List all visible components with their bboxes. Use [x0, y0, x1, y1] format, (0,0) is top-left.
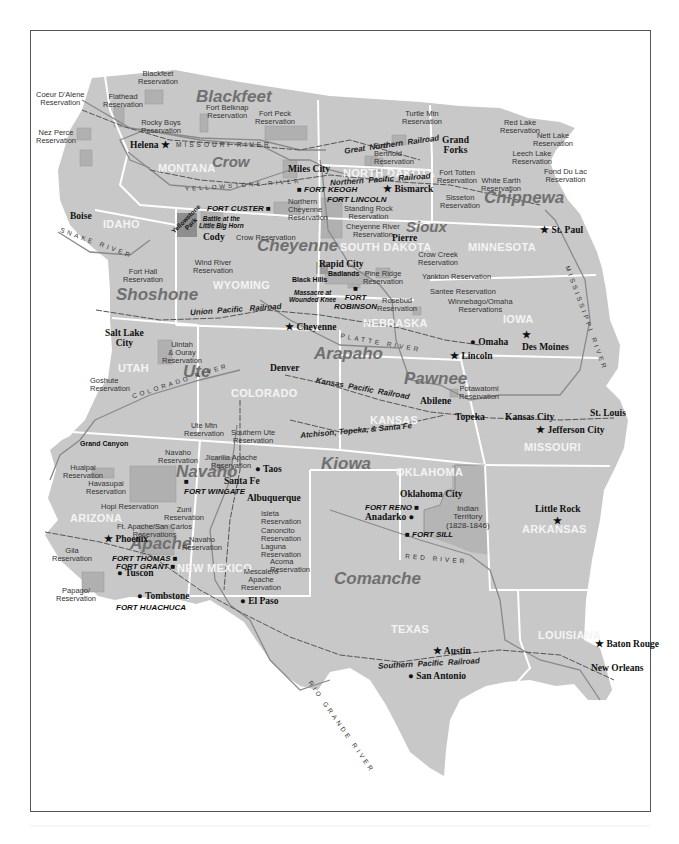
- landmark-line: Little Big Horn: [199, 222, 244, 229]
- label-nett-lake-reservation: Nett LakeReservation: [533, 132, 573, 148]
- state-label-minnesota: MINNESOTA: [468, 242, 536, 253]
- label-potawatomi-reservation: PotawatomiReservation: [459, 385, 499, 401]
- res-line: Reservation: [184, 429, 224, 438]
- city-name: Omaha: [478, 337, 508, 347]
- res-line: Reservation: [138, 77, 178, 86]
- city-name: Anadarko: [365, 512, 406, 522]
- city-st-paul: ★ St. Paul: [540, 226, 583, 236]
- city-name: Lincoln: [461, 351, 492, 361]
- city-name: Tombstone: [145, 591, 190, 601]
- city-kansas-city: Kansas City: [505, 413, 554, 423]
- city-new-orleans: New Orleans: [591, 664, 644, 674]
- label-coeur-dalene-reservation: Coeur D'AleneReservation: [36, 91, 85, 107]
- city-cheyenne: ★ Cheyenne: [285, 323, 337, 333]
- label-rosebud-reservation: RosebudReservation: [377, 297, 417, 313]
- label-isleta-reservation: IsletaReservation: [261, 510, 301, 526]
- fort-robinson: ■FORTROBINSON: [334, 285, 377, 311]
- res-line: Reservation: [440, 201, 480, 210]
- res-line: Reservation: [459, 392, 499, 401]
- city-name: Des Moines: [522, 342, 569, 352]
- fort-huachuca: FORT HUACHUCA: [116, 604, 186, 612]
- fort-grant: FORT GRANT ■: [116, 563, 175, 571]
- fort-custer: FORT CUSTER ■: [207, 205, 271, 213]
- fort-name: FORT CUSTER: [207, 204, 264, 213]
- label-flathead-reservation: FlatheadReservation: [103, 93, 143, 109]
- state-label-montana: MONTANA: [158, 163, 216, 174]
- rr-word: Pacific: [217, 305, 243, 316]
- state-label-iowa: IOWA: [503, 314, 534, 325]
- city-name: Bismarck: [394, 184, 433, 194]
- res-line: Reservation: [207, 111, 247, 120]
- res-line: Reservation: [255, 117, 295, 126]
- label-fort-totten-reservation: Fort TottenReservation: [437, 169, 477, 185]
- label-fort-peck-reservation: Fort PeckReservation: [255, 110, 295, 126]
- label-nez-perce-reservation: Nez PerceReservation: [36, 129, 76, 145]
- label-northern-cheyenne-reservation: NorthernCheyenneReservation: [288, 198, 328, 222]
- label-winnebago-omaha-reservations: Winnebago/OmahaReservations: [448, 298, 513, 314]
- tribe-label-arapaho: Arapaho: [314, 345, 383, 362]
- city-anadarko: Anadarko ●: [365, 513, 414, 523]
- label-white-earth-reservation: White EarthReservation: [481, 177, 521, 193]
- label-missouri-river: MISSOURI RIVER: [176, 142, 272, 149]
- tribe-label-pawnee: Pawnee: [404, 370, 467, 387]
- label-crow-creek-reservation: Crow CreekReservation: [418, 251, 458, 267]
- res-line: Reservation: [233, 436, 273, 445]
- label-santee-reservation: Santee Reservation: [430, 288, 496, 296]
- city-name: City: [116, 338, 133, 348]
- fort-reno: FORT RENO ■: [365, 504, 419, 512]
- label-jicarilla-apache-reservation: Jicarilla ApacheReservation: [205, 454, 257, 470]
- label-blackfeet-reservation: BlackfeetReservation: [138, 70, 178, 86]
- res-line: Reservations: [133, 530, 177, 539]
- city-oklahoma-city: Oklahoma City: [400, 490, 463, 500]
- city-name: Salt Lake: [105, 328, 144, 338]
- state-label-wyoming: WYOMING: [213, 280, 270, 291]
- res-line: Reservation: [158, 456, 198, 465]
- label-ft-apache-san-carlos-reservations: Ft. Apache/San CarlosReservations: [117, 523, 192, 539]
- label-zuni-reservation: ZuniReservation: [164, 506, 204, 522]
- state-label-utah: UTAH: [118, 363, 149, 374]
- label-black-hills: Black Hills: [292, 276, 327, 283]
- label-fort-hall-reservation: Fort HallReservation: [123, 268, 163, 284]
- landmark-line: Wounded Knee: [289, 296, 336, 303]
- rr-word: Union: [190, 307, 213, 318]
- res-line: Reservation: [437, 176, 477, 185]
- state-label-nebraska: NEBRASKA: [363, 318, 428, 329]
- res-line: Reservation: [512, 157, 552, 166]
- res-line: Reservation: [86, 487, 126, 496]
- city-name: Baton Rouge: [606, 639, 659, 649]
- res-line: Reservation: [52, 554, 92, 563]
- label-hualpai-reservation: HualpaiReservation: [63, 464, 103, 480]
- label-standing-rock-reservation: Standing RockReservation: [344, 205, 393, 221]
- state-label-texas: TEXAS: [391, 624, 429, 635]
- fort-sill: ■ FORT SILL: [405, 531, 453, 539]
- res-line: Reservation: [56, 594, 96, 603]
- city-rapid-city: Rapid City: [319, 260, 364, 270]
- city-boise: Boise: [70, 212, 92, 222]
- label-badlands: Badlands: [328, 270, 360, 277]
- city-miles-city: Miles City: [288, 165, 330, 175]
- city-omaha: ● Omaha: [470, 338, 508, 348]
- res-line: Reservation: [90, 384, 130, 393]
- city-st-louis: St. Louis: [590, 409, 626, 419]
- label-leech-lake-reservation: Leech LakeReservation: [512, 150, 552, 166]
- tribe-label-comanche: Comanche: [334, 570, 421, 587]
- label-fond-du-lac-reservation: Fond Du LacReservation: [544, 168, 587, 184]
- tribe-label-crow: Crow: [212, 154, 250, 169]
- landmark-line: (1828-1846): [446, 521, 490, 530]
- city-name: San Antonio: [416, 671, 466, 681]
- label-grand-canyon: Grand Canyon: [80, 440, 128, 447]
- label-pine-ridge-reservation: Pine RidgeReservation: [363, 270, 403, 286]
- res-line: Reservations: [458, 305, 502, 314]
- res-line: Reservation: [241, 583, 281, 592]
- city-cody: Cody: [203, 233, 225, 243]
- res-line: Reservation: [211, 461, 251, 470]
- fort-wingate: ■FORT WINGATE: [184, 477, 245, 498]
- label-yankton-reservation: Yankton Reservation: [422, 273, 491, 281]
- rr-word: Railroad: [448, 656, 480, 667]
- city-name: Little Rock: [535, 504, 581, 514]
- fort-keogh: ■ FORT KEOGH: [297, 186, 357, 194]
- state-label-oklahoma: OKLAHOMA: [396, 467, 463, 478]
- state-label-missouri: MISSOURI: [524, 442, 581, 453]
- fort-name: ROBINSON: [334, 302, 377, 311]
- label-turtle-mtn-reservation: Turtle MtnReservation: [402, 110, 442, 126]
